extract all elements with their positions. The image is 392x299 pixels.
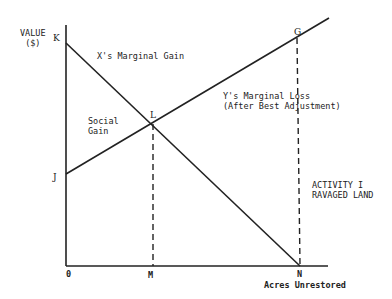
- social-gain-label: SocialGain: [88, 116, 119, 136]
- point-m-label: M: [148, 270, 153, 280]
- point-j-label: J: [53, 172, 57, 182]
- diagram-canvas: [0, 0, 392, 299]
- y-axis-label: VALUE ($): [20, 28, 46, 48]
- x-marginal-gain-line: [66, 43, 300, 266]
- x-axis-label: Acres Unrestored: [264, 280, 346, 290]
- point-l-label: L: [150, 110, 156, 120]
- point-g-label: G: [294, 27, 301, 37]
- point-k-label: K: [53, 33, 60, 43]
- activity-label: ACTIVITY IRAVAGED LAND: [312, 180, 373, 200]
- x-marginal-gain-label: X's Marginal Gain: [97, 51, 184, 61]
- point-n-label: N: [297, 269, 302, 279]
- origin-label: 0: [66, 269, 71, 279]
- dashed-line-gn: [297, 38, 300, 266]
- y-marginal-loss-label: Y's Marginal Loss(After Best Adjustment): [223, 91, 341, 111]
